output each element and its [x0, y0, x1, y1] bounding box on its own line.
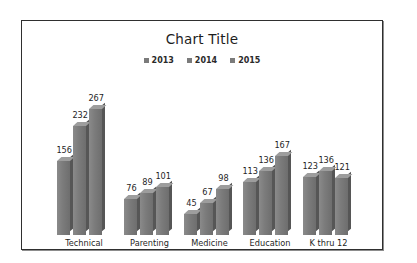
category-label: Education [241, 238, 299, 248]
category-group: 113136167Education [241, 55, 299, 235]
bar-value-label: 67 [202, 187, 212, 197]
bar-front-face [57, 161, 70, 235]
bar-parenting-2014[interactable]: 89 [140, 193, 156, 235]
category-label: Parenting [122, 238, 177, 248]
bar-front-face [200, 203, 213, 235]
bar-technical-2013[interactable]: 156 [57, 161, 73, 235]
bar-value-label: 156 [56, 145, 72, 155]
bar-value-label: 98 [218, 173, 228, 183]
category-group: 456798Medicine [182, 55, 237, 235]
bar-front-face [140, 193, 153, 235]
bar-front-face [259, 171, 272, 235]
bar-education-2014[interactable]: 136 [259, 171, 275, 235]
bar-value-label: 121 [334, 162, 350, 172]
bar-front-face [216, 189, 229, 235]
bar-front-face [124, 199, 137, 235]
bars-row: 7689101 [122, 55, 177, 235]
category-group: 123136121K thru 12 [301, 55, 356, 235]
bar-technical-2015[interactable]: 267 [89, 109, 105, 235]
bars-row: 456798 [182, 55, 237, 235]
bar-medicine-2013[interactable]: 45 [184, 214, 200, 235]
category-label: Medicine [182, 238, 237, 248]
bar-value-label: 232 [72, 110, 88, 120]
plot-area: 156232267Technical7689101Parenting456798… [22, 21, 382, 249]
bar-front-face [243, 182, 256, 235]
bar-value-label: 267 [88, 93, 104, 103]
bar-technical-2014[interactable]: 232 [73, 126, 89, 235]
bar-medicine-2015[interactable]: 98 [216, 189, 232, 235]
bar-value-label: 113 [242, 166, 258, 176]
bar-value-label: 101 [155, 171, 171, 181]
category-label: Technical [55, 238, 113, 248]
category-group: 7689101Parenting [122, 55, 177, 235]
bar-parenting-2015[interactable]: 101 [156, 187, 172, 235]
bar-parenting-2013[interactable]: 76 [124, 199, 140, 235]
bar-k-thru-12-2015[interactable]: 121 [335, 178, 351, 235]
bar-value-label: 89 [142, 177, 152, 187]
bar-value-label: 167 [274, 140, 290, 150]
category-label: K thru 12 [301, 238, 356, 248]
bar-value-label: 45 [186, 198, 196, 208]
bar-education-2015[interactable]: 167 [275, 156, 291, 235]
bar-front-face [73, 126, 86, 235]
bar-front-face [275, 156, 288, 235]
bar-k-thru-12-2013[interactable]: 123 [303, 177, 319, 235]
bar-front-face [156, 187, 169, 235]
bar-k-thru-12-2014[interactable]: 136 [319, 171, 335, 235]
bar-front-face [303, 177, 316, 235]
bar-value-label: 123 [302, 161, 318, 171]
chart-frame: Chart Title 201320142015 156232267Techni… [21, 20, 383, 250]
category-group: 156232267Technical [55, 55, 113, 235]
bars-row: 123136121 [301, 55, 356, 235]
bars-row: 113136167 [241, 55, 299, 235]
bar-front-face [89, 109, 102, 235]
bar-medicine-2014[interactable]: 67 [200, 203, 216, 235]
bars-row: 156232267 [55, 55, 113, 235]
bar-value-label: 136 [258, 155, 274, 165]
bar-value-label: 136 [318, 155, 334, 165]
bar-front-face [319, 171, 332, 235]
bar-front-face [335, 178, 348, 235]
bar-value-label: 76 [126, 183, 136, 193]
bar-front-face [184, 214, 197, 235]
bar-education-2013[interactable]: 113 [243, 182, 259, 235]
